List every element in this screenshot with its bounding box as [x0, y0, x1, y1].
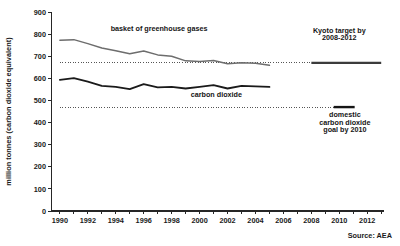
y-axis-title-text: million tonnes (carbon dioxide equivalen… [4, 37, 13, 186]
x-axis-tick-label: 2010 [331, 216, 347, 225]
series-line-greenhouse-gas-basket [60, 40, 270, 66]
chart-annotations: basket of greenhouse gasescarbon dioxide… [111, 24, 371, 134]
x-axis-tick-label: 1992 [80, 216, 96, 225]
x-axis-tick-label: 1996 [136, 216, 152, 225]
target-segments [311, 63, 381, 107]
y-axis: 0100200300400500600700800900 [34, 8, 52, 216]
basket-label: basket of greenhouse gases [111, 24, 208, 33]
y-axis-tick-label: 200 [34, 162, 46, 171]
x-axis-tick-label: 2006 [275, 216, 291, 225]
x-axis-tick-label: 2000 [191, 216, 207, 225]
y-axis-tick-label: 900 [34, 8, 46, 17]
x-axis-tick-label: 2008 [303, 216, 319, 225]
y-axis-tick-label: 400 [34, 118, 46, 127]
series-line-carbon-dioxide [60, 78, 270, 89]
carbon-dioxide-label: carbon dioxide [191, 90, 242, 99]
y-axis-tick-label: 600 [34, 74, 46, 83]
x-axis-tick-label: 2012 [359, 216, 375, 225]
greenhouse-gas-emissions-chart: 0100200300400500600700800900 19901992199… [0, 0, 400, 246]
x-axis-tick-label: 1994 [108, 216, 125, 225]
data-series [60, 40, 270, 90]
source-attribution: Source: AEA [348, 231, 393, 240]
y-axis-tick-label: 700 [34, 52, 46, 61]
x-axis-tick-label: 2002 [219, 216, 235, 225]
x-axis-tick-label: 2004 [247, 216, 264, 225]
y-axis-tick-label: 300 [34, 140, 46, 149]
domestic-label-line3: goal by 2010 [323, 125, 366, 134]
chart-canvas: 0100200300400500600700800900 19901992199… [0, 0, 400, 246]
x-axis: 1990199219941996199820002002200420062008… [52, 211, 385, 225]
y-axis-tick-label: 800 [34, 30, 46, 39]
kyoto-label-line2: 2008-2012 [322, 33, 356, 42]
x-axis-tick-label: 1998 [164, 216, 180, 225]
source-label: Source: AEA [348, 231, 393, 240]
x-axis-tick-label: 1990 [52, 216, 68, 225]
y-axis-tick-label: 500 [34, 96, 46, 105]
y-axis-tick-label: 100 [34, 185, 46, 194]
y-axis-tick-label: 0 [42, 207, 46, 216]
y-axis-title: million tonnes (carbon dioxide equivalen… [4, 37, 13, 186]
